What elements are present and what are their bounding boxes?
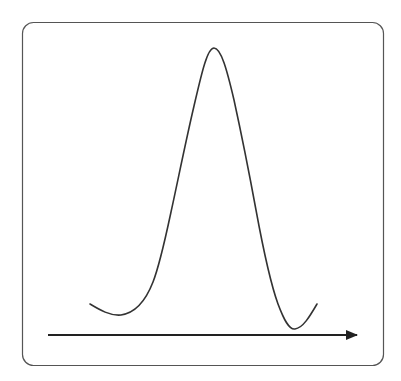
peak-diagram <box>0 0 401 381</box>
diagram-frame <box>23 23 384 366</box>
